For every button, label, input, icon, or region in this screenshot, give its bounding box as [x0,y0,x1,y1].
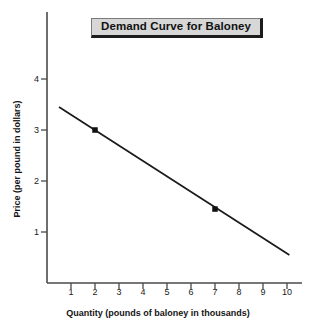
x-tick-label: 8 [231,288,247,297]
chart-title-box: Demand Curve for Baloney [91,18,263,38]
y-tick-label: 3 [27,126,39,135]
y-tick-label: 4 [27,75,39,84]
chart-title: Demand Curve for Baloney [101,21,251,33]
x-tick-label: 9 [255,288,271,297]
x-tick-label: 10 [279,288,295,297]
data-point-marker [92,127,98,133]
y-tick-label: 1 [27,228,39,237]
chart-container: Demand Curve for Baloney Price (per poun… [0,0,316,331]
y-axis-label-wrapper: Price (per pound in dollars) [13,69,27,249]
y-axis-label: Price (per pound in dollars) [13,69,22,249]
chart-plot-area [0,0,316,331]
x-tick-label: 2 [87,288,103,297]
y-tick-label: 2 [27,177,39,186]
x-tick-label: 4 [135,288,151,297]
x-tick-label: 5 [159,288,175,297]
data-point-marker [212,206,218,212]
x-axis-label: Quantity (pounds of baloney in thousands… [0,309,316,318]
x-tick-label: 6 [183,288,199,297]
x-tick-label: 7 [207,288,223,297]
y-axis-ticks [41,79,47,232]
x-tick-label: 1 [63,288,79,297]
x-tick-label: 3 [111,288,127,297]
